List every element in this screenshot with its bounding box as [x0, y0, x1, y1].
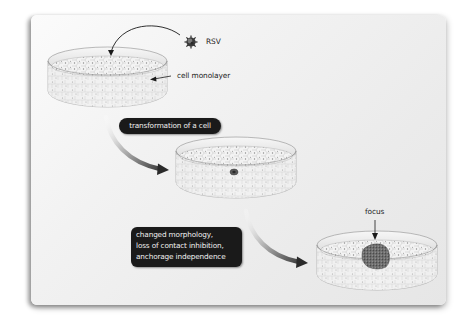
- diagram-canvas: [0, 0, 471, 325]
- petri-dish-focus: [317, 231, 437, 292]
- rsv-label: RSV: [206, 37, 221, 46]
- cell-monolayer-label: cell monolayer: [177, 71, 230, 80]
- petri-dish-transformed: [176, 137, 296, 200]
- transformed-cell: [230, 169, 238, 175]
- petri-dish-initial: [48, 47, 167, 108]
- step-label-transformation: transformation of a cell: [119, 118, 221, 134]
- phenotype-line-3: anchorage independence: [136, 252, 242, 263]
- focus-label: focus: [365, 207, 384, 216]
- cell-focus: [362, 244, 390, 269]
- process-arrow-2: [246, 211, 308, 268]
- step-label-phenotype: changed morphology, loss of contact inhi…: [131, 227, 242, 267]
- phenotype-line-1: changed morphology,: [136, 230, 242, 241]
- phenotype-line-2: loss of contact inhibition,: [136, 241, 242, 252]
- rsv-virus-icon: [185, 36, 198, 49]
